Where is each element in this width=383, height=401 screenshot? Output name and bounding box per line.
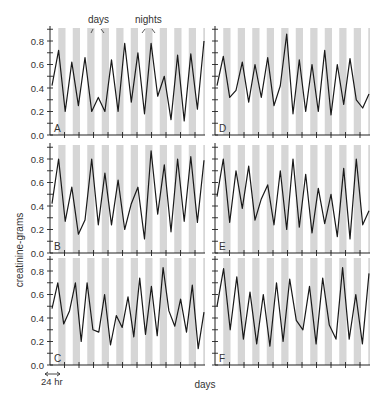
- y-tick-label: 0.4: [31, 201, 44, 212]
- night-band: [252, 145, 259, 253]
- night-band: [102, 258, 109, 365]
- scale-bar: 24 hr: [41, 372, 63, 387]
- night-band: [325, 145, 332, 253]
- night-band: [252, 258, 259, 365]
- y-tick-label: 0.8: [31, 154, 44, 165]
- night-band: [203, 258, 205, 365]
- night-band: [368, 145, 370, 253]
- y-tick-label: 0.4: [31, 313, 44, 324]
- y-axis-label: creatinine-grams: [14, 213, 25, 287]
- night-band: [131, 145, 138, 253]
- night-band: [116, 258, 123, 365]
- night-band: [325, 28, 332, 135]
- panel-letter: E: [219, 241, 226, 252]
- panels: 0.00.20.40.60.8A0.00.20.40.60.8B0.00.20.…: [31, 26, 370, 371]
- y-tick-label: 0.2: [31, 224, 44, 235]
- nights-pointer-left: [142, 29, 145, 33]
- night-band: [296, 258, 303, 365]
- panel-letter: F: [219, 353, 225, 364]
- y-tick-label: 0.8: [31, 36, 44, 47]
- figure: 0.00.20.40.60.8A0.00.20.40.60.8B0.00.20.…: [0, 0, 383, 401]
- panel-a: 0.00.20.40.60.8A: [31, 26, 205, 141]
- y-tick-label: 0.6: [31, 59, 44, 70]
- night-band: [73, 28, 80, 135]
- y-tick-label: 0.0: [31, 130, 44, 141]
- y-tick-label: 0.0: [31, 360, 44, 371]
- night-band: [160, 145, 167, 253]
- y-tick-label: 0.6: [31, 177, 44, 188]
- scale-bar-label: 24 hr: [41, 376, 63, 387]
- panel-letter: A: [54, 123, 61, 134]
- night-band: [102, 28, 109, 135]
- x-axis-label: days: [194, 379, 215, 390]
- night-band: [73, 258, 80, 365]
- night-band: [281, 258, 288, 365]
- panel-b: 0.00.20.40.60.8B: [31, 143, 205, 259]
- night-band: [160, 28, 167, 135]
- night-band: [354, 28, 361, 135]
- panel-letter: C: [54, 353, 61, 364]
- y-tick-label: 0.2: [31, 106, 44, 117]
- panel-letter: B: [54, 241, 61, 252]
- y-tick-label: 0.8: [31, 266, 44, 277]
- night-band: [145, 145, 152, 253]
- panel-e: E: [212, 143, 370, 256]
- night-band: [189, 28, 196, 135]
- panel-c: 0.00.20.40.60.8C: [31, 256, 205, 371]
- night-band: [238, 28, 245, 135]
- night-band: [238, 258, 245, 365]
- night-band: [368, 28, 370, 135]
- night-band: [354, 258, 361, 365]
- panel-f: F: [212, 256, 370, 368]
- night-band: [310, 258, 317, 365]
- panel-letter: D: [219, 123, 226, 134]
- nights-annotation: nights: [135, 14, 162, 25]
- night-band: [116, 28, 123, 135]
- night-band: [281, 145, 288, 253]
- night-band: [116, 145, 123, 253]
- days-annotation: days: [88, 14, 109, 25]
- panel-d: D: [212, 26, 370, 138]
- y-tick-label: 0.2: [31, 336, 44, 347]
- y-tick-label: 0.0: [31, 248, 44, 259]
- y-tick-label: 0.6: [31, 289, 44, 300]
- y-tick-label: 0.4: [31, 83, 44, 94]
- night-band: [325, 258, 332, 365]
